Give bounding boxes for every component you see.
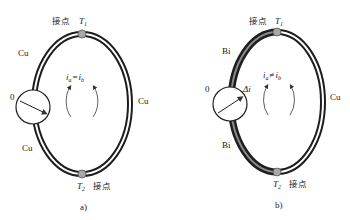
wire-cu-b [277, 32, 323, 172]
junction-label-bottom-b: 接点 [289, 179, 307, 189]
galvanometer-a [16, 90, 50, 124]
junction-t2-a [78, 170, 86, 178]
junction-symbol-bottom-a: T2 [77, 181, 85, 192]
wire-label-right-a: Cu [138, 96, 149, 106]
junction-t1-b [273, 28, 281, 36]
current-relation-b: ia≠ib [263, 70, 281, 81]
junction-label-top-a: 接点 [52, 16, 70, 26]
meter-zero-label-b: 0 [205, 84, 210, 94]
junction-symbol-top-b: T1 [275, 16, 283, 27]
current-relation-a: ia=ib [66, 72, 84, 83]
junction-t2-b [273, 168, 281, 176]
junction-symbol-bottom-b: T2 [273, 179, 281, 190]
current-arrows-b [264, 86, 295, 115]
wire-label-right-b: Cu [330, 92, 341, 102]
junction-label-top-b: 接点 [249, 16, 267, 26]
wire-label-left-upper-a: Cu [18, 48, 29, 58]
wire-label-left-lower-a: Cu [22, 143, 33, 153]
diagram-b: 接点 T1 T2 接点 Bi Bi Cu 0 Δi ia≠ib b) [205, 16, 341, 210]
meter-zero-label-a: 0 [10, 92, 15, 102]
wire-label-left-lower-b: Bi [222, 140, 231, 150]
galvanometer-b [213, 87, 247, 121]
junction-t1-a [78, 30, 86, 38]
thermocouple-figure: 接点 T1 T2 接点 Cu Cu Cu 0 ia=ib a) [0, 0, 350, 220]
wire-label-left-upper-b: Bi [222, 46, 231, 56]
caption-a: a) [80, 202, 87, 212]
caption-b: b) [275, 200, 283, 210]
meter-deflection-label-b: Δi [242, 84, 251, 94]
current-arrows-a [66, 87, 98, 117]
junction-label-bottom-a: 接点 [93, 181, 111, 191]
junction-symbol-top-a: T1 [79, 16, 87, 27]
diagram-a: 接点 T1 T2 接点 Cu Cu Cu 0 ia=ib a) [10, 16, 149, 212]
